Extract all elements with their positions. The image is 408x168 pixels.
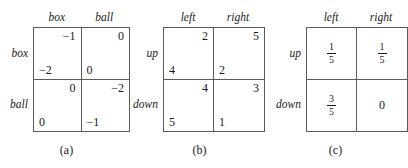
fraction-numerator: 3 xyxy=(327,94,336,105)
fraction: 1 5 xyxy=(378,42,387,65)
probability-grid-c: 1 5 1 5 3 5 xyxy=(306,27,408,132)
column-header-right: right xyxy=(356,11,406,24)
panel-b: left right up down 2 4 5 2 4 5 3 1 xyxy=(133,0,266,168)
fraction-numerator: 1 xyxy=(378,42,387,53)
cell-box-ball[interactable]: 0 0 xyxy=(82,28,130,80)
fraction-numerator: 1 xyxy=(327,42,336,53)
row-label-ball: ball xyxy=(0,79,33,131)
cell-ball-ball[interactable]: −2 −1 xyxy=(82,80,130,132)
probability-value: 1 5 xyxy=(307,28,356,79)
payoff-column-player: 4 xyxy=(202,82,208,95)
payoff-row-player: −1 xyxy=(87,116,100,129)
row-labels-c: up down xyxy=(266,27,306,130)
payoff-column-player: −1 xyxy=(63,30,76,43)
fraction-denominator: 5 xyxy=(327,105,336,117)
row-label-up: up xyxy=(266,27,306,79)
fraction: 1 5 xyxy=(327,42,336,65)
column-header-left: left xyxy=(163,11,213,24)
column-header-box: box xyxy=(33,11,81,24)
column-header-left: left xyxy=(306,11,356,24)
probability-value: 0 xyxy=(357,80,407,132)
column-headers-a: box ball xyxy=(33,11,128,24)
cell-box-box[interactable]: −1 −2 xyxy=(34,28,82,80)
cell-down-right[interactable]: 3 1 xyxy=(214,80,264,132)
panel-caption-a: (a) xyxy=(0,143,133,158)
row-labels-a: box ball xyxy=(0,27,33,130)
payoff-row-player: 4 xyxy=(169,64,175,77)
payoff-column-player: −2 xyxy=(111,82,124,95)
payoff-column-player: 5 xyxy=(253,30,259,43)
column-headers-c: left right xyxy=(306,11,406,24)
payoff-row-player: 2 xyxy=(219,64,225,77)
payoff-column-player: 2 xyxy=(202,30,208,43)
cell-down-right[interactable]: 0 xyxy=(357,80,407,132)
payoff-row-player: 1 xyxy=(219,116,225,129)
payoff-row-player: −2 xyxy=(39,64,52,77)
payoff-column-player: 0 xyxy=(70,82,76,95)
matrix-grid-b: 2 4 5 2 4 5 3 1 xyxy=(163,27,265,132)
column-header-right: right xyxy=(213,11,263,24)
cell-up-left[interactable]: 2 4 xyxy=(164,28,214,80)
cell-ball-box[interactable]: 0 0 xyxy=(34,80,82,132)
probability-value: 1 5 xyxy=(357,28,407,79)
fraction-denominator: 5 xyxy=(327,53,336,65)
row-label-box: box xyxy=(0,27,33,79)
payoff-column-player: 3 xyxy=(253,82,259,95)
row-label-down: down xyxy=(133,79,163,131)
payoff-row-player: 0 xyxy=(87,64,93,77)
column-header-ball: ball xyxy=(81,11,129,24)
whole-number: 0 xyxy=(379,98,385,113)
row-labels-b: up down xyxy=(133,27,163,130)
fraction-denominator: 5 xyxy=(378,53,387,65)
payoff-row-player: 0 xyxy=(39,116,45,129)
cell-down-left[interactable]: 3 5 xyxy=(307,80,357,132)
panel-caption-c: (c) xyxy=(266,143,405,158)
cell-down-left[interactable]: 4 5 xyxy=(164,80,214,132)
cell-up-right[interactable]: 5 2 xyxy=(214,28,264,80)
cell-up-right[interactable]: 1 5 xyxy=(357,28,407,80)
panel-caption-b: (b) xyxy=(133,143,266,158)
column-headers-b: left right xyxy=(163,11,263,24)
row-label-up: up xyxy=(133,27,163,79)
payoff-row-player: 5 xyxy=(169,116,175,129)
panel-a: box ball box ball −1 −2 0 0 0 0 −2 −1 xyxy=(0,0,133,168)
fraction: 3 5 xyxy=(327,94,336,117)
row-label-down: down xyxy=(266,79,306,131)
payoff-column-player: 0 xyxy=(118,30,124,43)
probability-value: 3 5 xyxy=(307,80,356,132)
cell-up-left[interactable]: 1 5 xyxy=(307,28,357,80)
panel-c: left right up down 1 5 1 5 xyxy=(266,0,405,168)
matrix-grid-a: −1 −2 0 0 0 0 −2 −1 xyxy=(33,27,130,132)
